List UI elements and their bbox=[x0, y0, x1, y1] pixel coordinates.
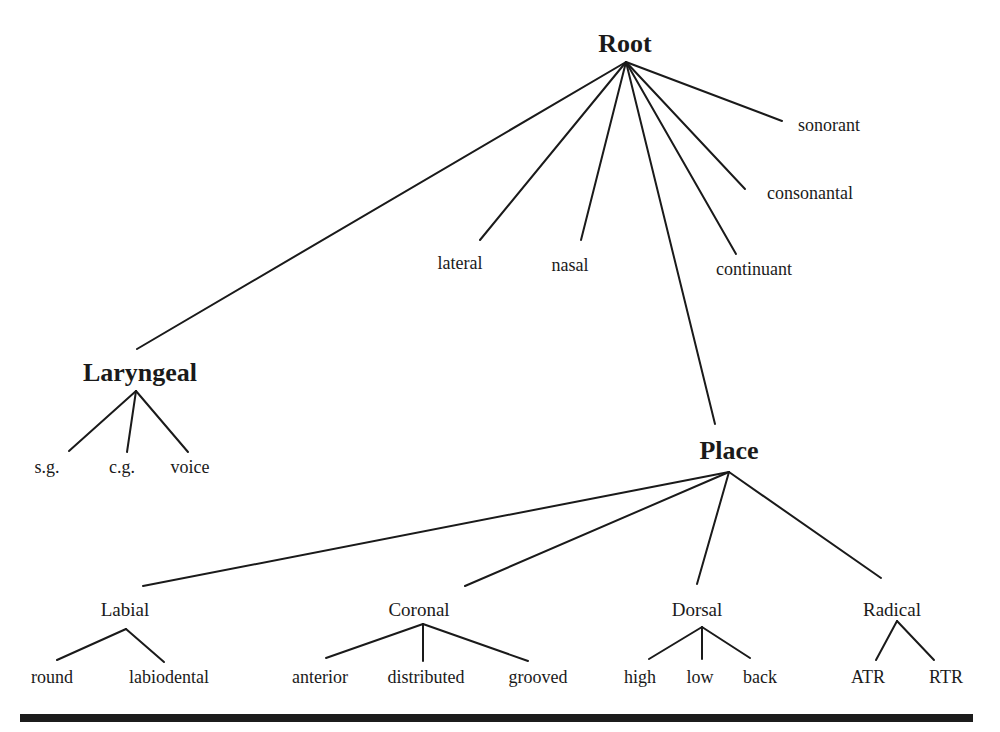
edge-root-sonorant bbox=[626, 62, 782, 121]
edge-place-radical bbox=[729, 472, 881, 578]
node-consonantal: consonantal bbox=[767, 184, 853, 202]
node-root: Root bbox=[598, 31, 651, 57]
node-high: high bbox=[624, 668, 656, 686]
node-nasal: nasal bbox=[552, 256, 589, 274]
bottom-rule-divider bbox=[20, 714, 973, 722]
edge-radical-atr bbox=[876, 621, 897, 660]
edge-labial-labiodental bbox=[126, 629, 164, 662]
edge-radical-rtr bbox=[897, 621, 934, 660]
node-round: round bbox=[31, 668, 73, 686]
node-atr: ATR bbox=[851, 668, 885, 686]
node-laryngeal: Laryngeal bbox=[83, 360, 197, 386]
node-low: low bbox=[687, 668, 714, 686]
node-back: back bbox=[743, 668, 777, 686]
node-lateral: lateral bbox=[438, 254, 483, 272]
edge-laryngeal-cg bbox=[127, 391, 136, 452]
edge-labial-round bbox=[57, 629, 126, 660]
node-voice: voice bbox=[171, 458, 210, 476]
edge-laryngeal-voice bbox=[136, 391, 188, 452]
node-coronal: Coronal bbox=[388, 600, 449, 619]
edge-place-dorsal bbox=[697, 472, 729, 584]
edge-place-labial bbox=[143, 472, 729, 586]
edge-place-coronal bbox=[465, 472, 729, 586]
edge-root-laryngeal bbox=[137, 62, 626, 349]
node-sonorant: sonorant bbox=[798, 116, 860, 134]
edge-coronal-anterior bbox=[326, 624, 423, 658]
edge-root-consonantal bbox=[626, 62, 745, 189]
node-sg: s.g. bbox=[34, 458, 59, 476]
node-anterior: anterior bbox=[292, 668, 348, 686]
edge-laryngeal-sg bbox=[69, 391, 136, 451]
node-labiodental: labiodental bbox=[129, 668, 209, 686]
node-distributed: distributed bbox=[388, 668, 465, 686]
node-radical: Radical bbox=[863, 600, 921, 619]
edge-dorsal-back bbox=[702, 627, 750, 658]
node-labial: Labial bbox=[101, 600, 150, 619]
edge-root-place bbox=[626, 62, 715, 424]
edge-coronal-grooved bbox=[423, 624, 528, 661]
node-place: Place bbox=[699, 438, 758, 464]
node-cg: c.g. bbox=[109, 458, 135, 476]
node-rtr: RTR bbox=[929, 668, 963, 686]
node-grooved: grooved bbox=[509, 668, 568, 686]
node-continuant: continuant bbox=[716, 260, 792, 278]
node-dorsal: Dorsal bbox=[672, 600, 723, 619]
edge-dorsal-high bbox=[649, 627, 702, 659]
edge-root-continuant bbox=[626, 62, 736, 254]
